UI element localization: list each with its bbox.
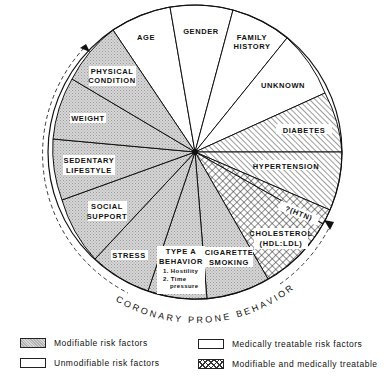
label-cholesterol-2: (HDL:LDL) xyxy=(260,239,303,248)
label-sedentary-1: SEDENTARY xyxy=(64,156,115,165)
arrowhead-right-icon xyxy=(324,220,334,230)
legend-swatch-both xyxy=(198,359,224,369)
pie-center-dot xyxy=(192,149,198,155)
label-family-history-1: FAMILY xyxy=(237,33,267,42)
label-family-history-2: HISTORY xyxy=(233,42,270,51)
label-social-1: SOCIAL xyxy=(91,202,123,211)
legend-swatch-modifiable xyxy=(20,338,46,348)
label-sedentary-2: LIFESTYLE xyxy=(66,166,112,175)
label-type-a-hostility: 1. Hostility xyxy=(163,268,198,274)
legend-label-modifiable: Modifiable risk factors xyxy=(54,338,148,348)
legend-label-both: Modifiable and medically treatable xyxy=(232,359,378,369)
label-cholesterol-1: CHOLESTEROL xyxy=(249,229,312,238)
label-hypertension: HYPERTENSION xyxy=(253,162,319,171)
label-type-a-2: BEHAVIOR xyxy=(159,257,203,266)
legend-label-medically-treatable: Medically treatable risk factors xyxy=(232,339,362,349)
label-type-a-1: TYPE A xyxy=(166,247,196,256)
legend: Modifiable risk factors Unmodifiable ris… xyxy=(0,335,392,385)
label-cigarette-2: SMOKING xyxy=(209,258,249,267)
legend-item-modifiable: Modifiable risk factors xyxy=(20,338,148,348)
label-physical-1: PHYSICAL xyxy=(91,67,134,76)
label-diabetes: DIABETES xyxy=(283,126,326,135)
label-weight: WEIGHT xyxy=(71,114,105,123)
label-type-a-time: 2. Time xyxy=(163,276,187,282)
legend-item-medically-treatable: Medically treatable risk factors xyxy=(198,339,362,349)
label-gender: GENDER xyxy=(183,27,219,36)
risk-factor-pie-chart: AGE GENDER FAMILY HISTORY UNKNOWN DIABET… xyxy=(0,0,392,335)
label-social-2: SUPPORT xyxy=(87,212,127,221)
legend-item-both: Modifiable and medically treatable xyxy=(198,359,378,369)
label-unknown: UNKNOWN xyxy=(261,81,305,90)
label-physical-2: CONDITION xyxy=(88,76,135,85)
legend-item-unmodifiable: Unmodifiable risk factors xyxy=(20,358,160,368)
legend-swatch-unmodifiable xyxy=(20,358,46,368)
legend-swatch-medically-treatable xyxy=(198,339,224,349)
label-age: AGE xyxy=(137,33,155,42)
legend-label-unmodifiable: Unmodifiable risk factors xyxy=(54,358,160,368)
label-stress: STRESS xyxy=(112,251,146,260)
label-type-a-pressure: pressure xyxy=(170,283,199,289)
label-cigarette-1: CIGARETTE xyxy=(205,248,254,257)
